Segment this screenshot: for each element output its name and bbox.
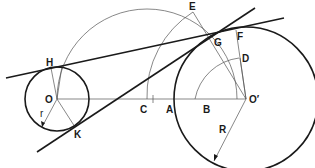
label-k: K [74, 129, 82, 140]
construction-semicircle [57, 9, 237, 99]
arc-b-to-d [195, 58, 239, 99]
label-d: D [242, 53, 249, 64]
label-o: O [45, 94, 53, 105]
label-r-small: r [40, 108, 44, 119]
label-e: E [189, 1, 196, 12]
line-o-prime-e [193, 12, 246, 99]
label-c: C [140, 104, 147, 115]
radius-o-k [57, 99, 75, 127]
line-o-prime-d [240, 58, 246, 99]
tangent-construction-diagram: E G F D H O C A B O′ r K R [0, 0, 315, 168]
label-b: B [203, 104, 210, 115]
label-h: H [46, 57, 53, 68]
label-a: A [166, 104, 173, 115]
external-tangent-line [6, 18, 284, 78]
label-o-prime: O′ [249, 94, 260, 105]
radius-o-up [57, 66, 62, 99]
label-f: F [237, 31, 243, 42]
label-r-large: R [219, 124, 227, 135]
arc-c-to-e [147, 12, 193, 99]
label-g: G [214, 37, 222, 48]
